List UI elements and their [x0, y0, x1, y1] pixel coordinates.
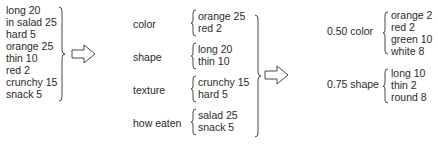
stage1-item: long 20	[6, 4, 57, 16]
opening-brace-icon	[190, 75, 197, 103]
stage2-item: snack 5	[198, 121, 238, 133]
stage3-item: green 10	[391, 33, 432, 45]
opening-brace-icon	[382, 11, 389, 55]
stage1-item: crunchy 15	[6, 76, 57, 88]
stage2-group-shape: long 20 thin 10	[198, 43, 232, 67]
right-arrow-icon	[71, 44, 97, 64]
stage2-group-texture: crunchy 15 hard 5	[198, 76, 249, 100]
stage1-item: orange 25	[6, 40, 57, 52]
stage3-group-shape: long 10 thin 2 round 8	[391, 67, 427, 103]
stage2-item: orange 25	[198, 10, 245, 22]
opening-brace-icon	[382, 68, 389, 104]
stage2-item: crunchy 15	[198, 76, 249, 88]
stage3-item: long 10	[391, 67, 427, 79]
stage1-item: snack 5	[6, 88, 57, 100]
stage2-group-how-eaten: salad 25 snack 5	[198, 109, 238, 133]
right-arrow-icon	[264, 65, 290, 85]
stage3-group-color: orange 2 red 2 green 10 white 8	[391, 9, 432, 57]
stage3-item: orange 2	[391, 9, 432, 21]
stage3-item: thin 2	[391, 79, 427, 91]
stage2-label-texture: texture	[133, 84, 165, 96]
stage3-label-shape: 0.75 shape	[327, 78, 379, 90]
stage1-item: in salad 25	[6, 16, 57, 28]
stage2-label-color: color	[133, 18, 156, 30]
stage3-item: round 8	[391, 91, 427, 103]
closing-brace-icon	[254, 14, 262, 138]
stage2-item: hard 5	[198, 88, 249, 100]
stage2-label-how-eaten: how eaten	[133, 117, 181, 129]
stage2-group-color: orange 25 red 2	[198, 10, 245, 34]
stage1-item: hard 5	[6, 28, 57, 40]
stage2-item: thin 10	[198, 55, 232, 67]
stage3-item: red 2	[391, 21, 432, 33]
stage2-item: long 20	[198, 43, 232, 55]
stage2-item: salad 25	[198, 109, 238, 121]
opening-brace-icon	[190, 108, 197, 136]
stage3-label-color: 0.50 color	[327, 25, 373, 37]
closing-brace-icon	[58, 6, 66, 102]
opening-brace-icon	[190, 9, 197, 37]
stage3-item: white 8	[391, 45, 432, 57]
stage2-label-shape: shape	[133, 51, 162, 63]
opening-brace-icon	[190, 42, 197, 70]
stage1-list: long 20 in salad 25 hard 5 orange 25 thi…	[6, 4, 57, 100]
stage1-item: thin 10	[6, 52, 57, 64]
stage2-item: red 2	[198, 22, 245, 34]
stage1-item: red 2	[6, 64, 57, 76]
